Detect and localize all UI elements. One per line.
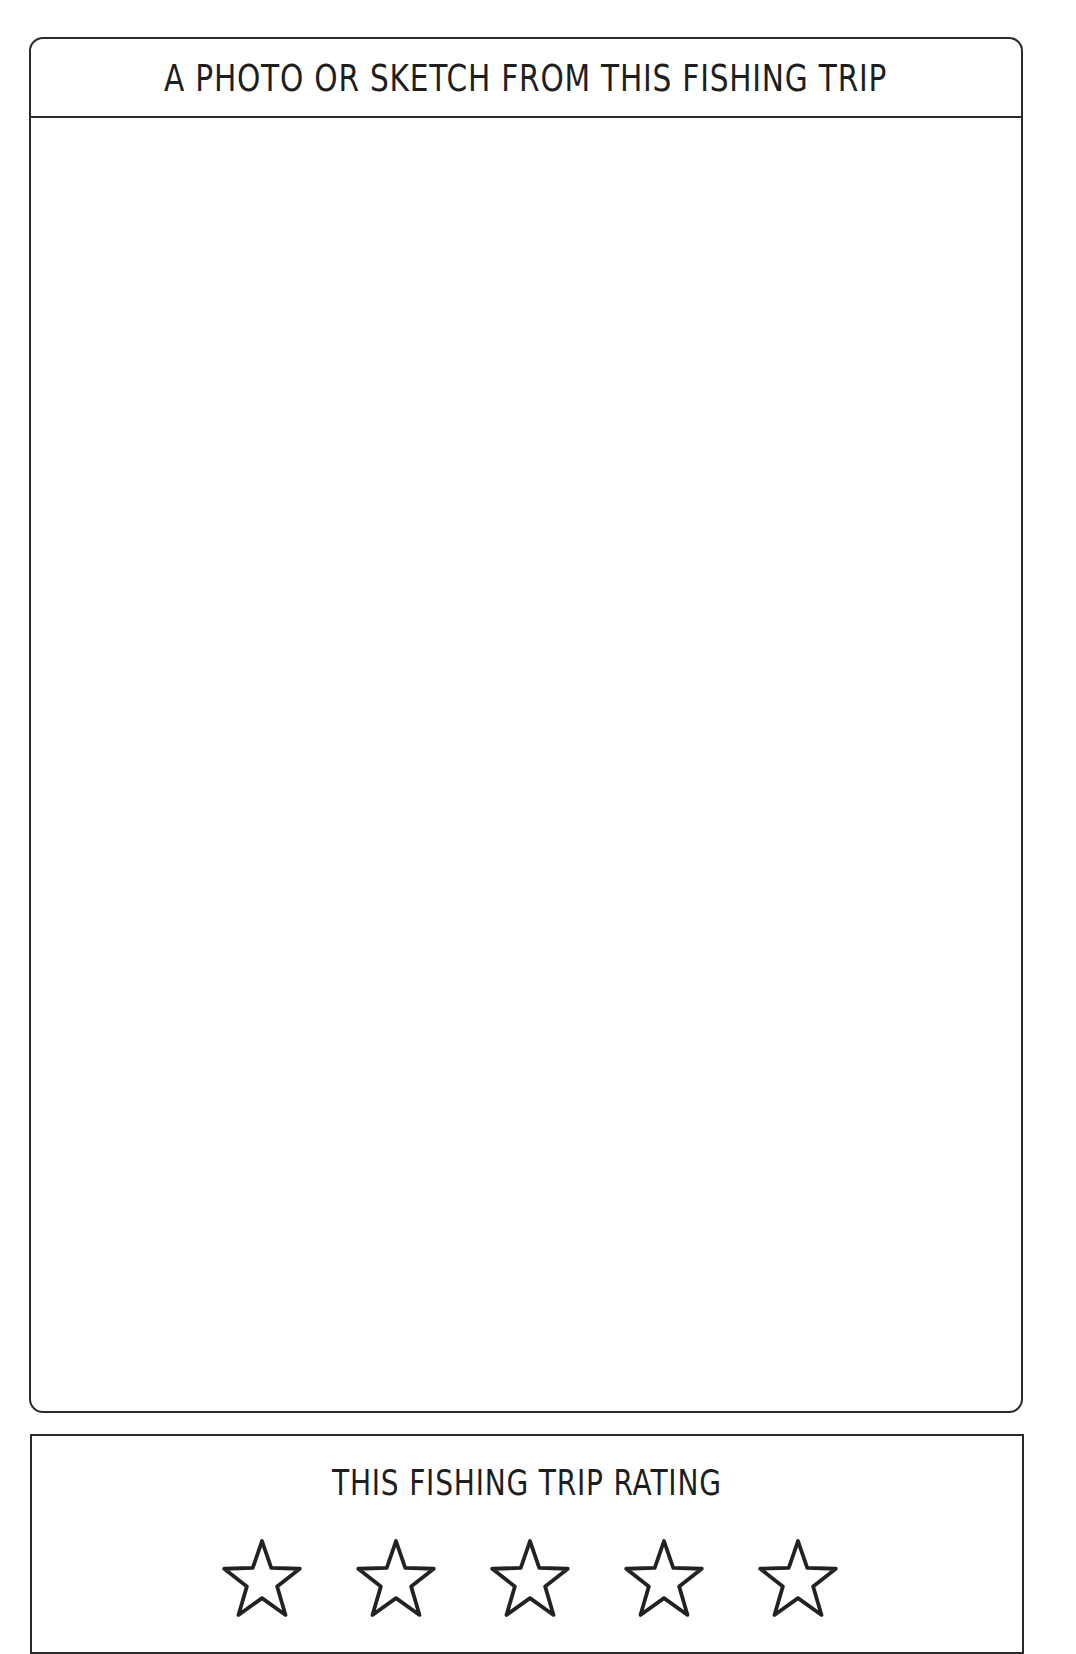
trip-rating-box: THIS FISHING TRIP RATING xyxy=(30,1434,1024,1654)
star-5-icon[interactable] xyxy=(756,1536,840,1620)
star-4-icon[interactable] xyxy=(622,1536,706,1620)
photo-drawing-area[interactable] xyxy=(31,118,1021,1411)
photo-sketch-box: A PHOTO OR SKETCH FROM THIS FISHING TRIP xyxy=(29,37,1023,1413)
star-1-icon[interactable] xyxy=(220,1536,304,1620)
photo-box-title: A PHOTO OR SKETCH FROM THIS FISHING TRIP xyxy=(164,56,887,100)
rating-title: THIS FISHING TRIP RATING xyxy=(332,1462,722,1503)
rating-title-wrap: THIS FISHING TRIP RATING xyxy=(32,1462,1022,1503)
photo-box-header: A PHOTO OR SKETCH FROM THIS FISHING TRIP xyxy=(31,39,1021,118)
star-3-icon[interactable] xyxy=(488,1536,572,1620)
star-2-icon[interactable] xyxy=(354,1536,438,1620)
